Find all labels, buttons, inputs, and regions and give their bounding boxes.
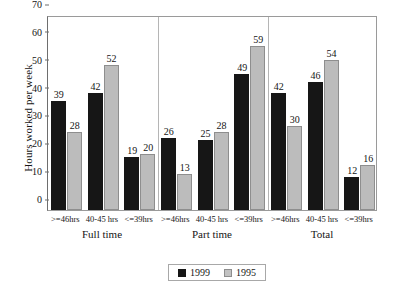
group-label: Part time — [152, 228, 272, 240]
legend-entry: 1999 — [178, 267, 210, 278]
group-divider — [268, 17, 269, 210]
bar-1999 — [88, 93, 103, 210]
bar-1995 — [140, 154, 155, 210]
bar-chart-figure: Hours worked per week 010203040506070392… — [0, 0, 400, 288]
bar-1995 — [104, 65, 119, 210]
bar-cluster: 2528 — [198, 17, 229, 210]
y-axis-tick-label: 30 — [32, 110, 48, 121]
bar-value-label: 52 — [97, 53, 127, 64]
bar-1999 — [271, 93, 286, 210]
bar-1999 — [124, 157, 139, 210]
bar-1999 — [344, 177, 359, 210]
group-label: Full time — [42, 228, 162, 240]
bar-1995 — [67, 132, 82, 210]
group-divider — [158, 17, 159, 210]
bar-cluster: 2613 — [161, 17, 192, 210]
x-axis-tick-label: <=39hrs — [328, 214, 390, 224]
legend-label: 1999 — [190, 267, 210, 278]
y-axis-tick-label: 70 — [32, 0, 48, 10]
bar-value-label: 39 — [44, 89, 74, 100]
bar-cluster: 3928 — [51, 17, 82, 210]
group-label: Total — [262, 228, 382, 240]
bar-1999 — [308, 82, 323, 210]
legend-swatch-icon — [178, 269, 186, 277]
bar-1995 — [250, 46, 265, 210]
bar-1995 — [287, 126, 302, 210]
y-axis-tick-label: 50 — [32, 54, 48, 65]
bar-value-label: 13 — [170, 162, 200, 173]
bar-1999 — [51, 101, 66, 210]
bar-1999 — [234, 74, 249, 211]
bar-value-label: 28 — [207, 120, 237, 131]
legend-label: 1995 — [236, 267, 256, 278]
y-axis-tick-label: 60 — [32, 26, 48, 37]
bar-value-label: 59 — [243, 34, 273, 45]
bar-cluster: 4654 — [308, 17, 339, 210]
y-axis-tick-label: 0 — [37, 194, 48, 205]
bar-value-label: 16 — [353, 153, 383, 164]
bar-cluster: 4959 — [234, 17, 265, 210]
chart-legend: 19991995 — [168, 264, 266, 281]
bar-value-label: 26 — [154, 126, 184, 137]
bar-1995 — [360, 165, 375, 210]
bar-1995 — [324, 60, 339, 210]
bar-value-label: 54 — [317, 48, 347, 59]
legend-entry: 1995 — [224, 267, 256, 278]
bar-1999 — [161, 138, 176, 210]
plot-area: 0102030405060703928425219202613252849594… — [47, 16, 377, 211]
bar-cluster: 1920 — [124, 17, 155, 210]
y-axis-tick-label: 10 — [32, 166, 48, 177]
bar-cluster: 4230 — [271, 17, 302, 210]
bar-1999 — [198, 140, 213, 210]
bar-value-label: 30 — [280, 114, 310, 125]
bar-1995 — [177, 174, 192, 210]
bar-cluster: 1216 — [344, 17, 375, 210]
y-axis-tick-label: 20 — [32, 138, 48, 149]
bar-cluster: 4252 — [88, 17, 119, 210]
bar-value-label: 28 — [60, 120, 90, 131]
bar-value-label: 42 — [264, 81, 294, 92]
legend-swatch-icon — [224, 269, 232, 277]
bar-1995 — [214, 132, 229, 210]
bar-value-label: 20 — [133, 142, 163, 153]
